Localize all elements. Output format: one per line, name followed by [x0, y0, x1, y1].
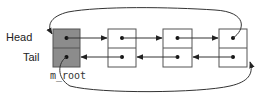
root-node	[53, 29, 80, 67]
list-node	[108, 29, 136, 67]
tail-label: Tail	[23, 52, 40, 63]
head-label: Head	[6, 32, 32, 43]
list-node	[163, 29, 192, 67]
linked-list-diagram	[0, 0, 264, 97]
list-node	[219, 29, 247, 67]
root-label: m_root	[50, 71, 86, 81]
